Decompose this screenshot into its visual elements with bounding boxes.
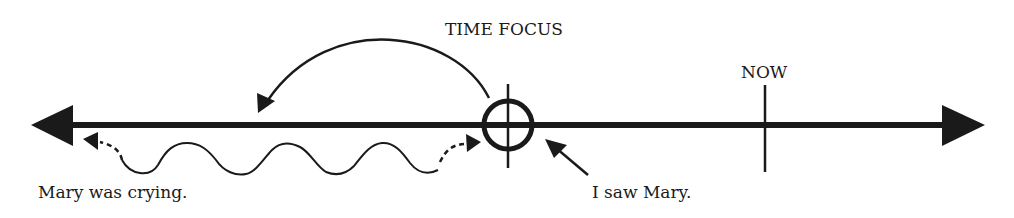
dashed-extension-left bbox=[100, 142, 122, 160]
focus-curve-arrow bbox=[268, 40, 489, 100]
ongoing-activity-wave bbox=[122, 143, 438, 175]
dashed-extension-right bbox=[440, 144, 464, 162]
dashed-right-arrowhead-icon bbox=[466, 134, 481, 152]
past-arrowhead-icon bbox=[31, 105, 73, 146]
past-progressive-label: Mary was crying. bbox=[38, 182, 187, 202]
past-simple-label: I saw Mary. bbox=[592, 182, 691, 202]
now-label: NOW bbox=[741, 62, 787, 82]
dashed-left-arrowhead-icon bbox=[83, 132, 98, 150]
event-pointer-line bbox=[556, 148, 588, 175]
future-arrowhead-icon bbox=[942, 105, 985, 146]
time-focus-label: TIME FOCUS bbox=[445, 19, 563, 39]
